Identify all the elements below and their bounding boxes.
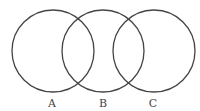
label-b: B bbox=[99, 97, 107, 110]
circle-c bbox=[113, 10, 195, 92]
venn-diagram: A B C bbox=[0, 0, 200, 111]
circle-a bbox=[12, 10, 94, 92]
label-c: C bbox=[149, 97, 157, 110]
label-a: A bbox=[47, 97, 57, 110]
circle-b bbox=[62, 10, 144, 92]
